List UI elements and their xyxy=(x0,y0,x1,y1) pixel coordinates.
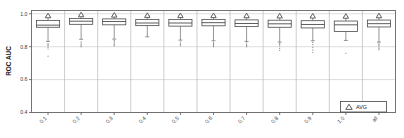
x-tick-label: 1.0 xyxy=(336,115,346,125)
mean-triangle-marker xyxy=(78,12,83,17)
x-tick-label: 0.6 xyxy=(204,115,214,125)
box-group xyxy=(169,13,192,46)
box-group xyxy=(202,13,225,47)
box-series xyxy=(36,12,390,57)
legend-label-avg: AVG xyxy=(356,104,367,110)
box-group xyxy=(367,13,390,50)
box-group xyxy=(235,13,258,47)
y-tick-label: 0.4 xyxy=(20,109,27,115)
box-group xyxy=(103,13,126,47)
outlier-point xyxy=(378,49,379,50)
box-group xyxy=(268,13,291,51)
outlier-point xyxy=(114,45,115,46)
boxplot-chart: 0.40.60.81.0 0.10.20.30.40.50.60.70.80.9… xyxy=(0,0,404,138)
outlier-point xyxy=(81,42,82,43)
outlier-point xyxy=(246,44,247,45)
mean-triangle-marker xyxy=(112,13,117,18)
outlier-point xyxy=(81,41,82,42)
box-group xyxy=(70,12,93,47)
outlier-point xyxy=(312,49,313,50)
outlier-point xyxy=(180,42,181,43)
outlier-point xyxy=(47,45,48,46)
outlier-point xyxy=(312,42,313,43)
outlier-point xyxy=(246,46,247,47)
outlier-point xyxy=(114,42,115,43)
y-tick-label: 0.8 xyxy=(20,44,27,50)
outlier-point xyxy=(378,48,379,49)
box-group xyxy=(136,13,159,37)
y-axis-ticks: 0.40.60.81.0 xyxy=(20,11,31,116)
outlier-point xyxy=(114,40,115,41)
outlier-point xyxy=(213,46,214,47)
x-tick-label: 0.1 xyxy=(38,115,48,125)
outlier-point xyxy=(180,45,181,46)
x-tick-label: 0.5 xyxy=(171,115,181,125)
y-tick-label: 1.0 xyxy=(20,11,27,17)
legend[interactable]: AVG xyxy=(341,102,387,113)
box-group xyxy=(334,14,357,54)
box-rect xyxy=(36,20,59,27)
x-tick-label: all xyxy=(371,115,379,123)
outlier-point xyxy=(180,41,181,42)
outlier-point xyxy=(279,43,280,44)
x-tick-label: 0.8 xyxy=(270,115,280,125)
outlier-point xyxy=(345,53,346,54)
outlier-point xyxy=(213,43,214,44)
outlier-point xyxy=(378,42,379,43)
outlier-point xyxy=(279,48,280,49)
outlier-point xyxy=(279,50,280,51)
outlier-point xyxy=(378,45,379,46)
outlier-point xyxy=(180,44,181,45)
x-tick-label: 0.3 xyxy=(104,115,114,125)
x-axis-ticks: 0.10.20.30.40.50.60.70.80.91.0all xyxy=(38,113,379,125)
x-tick-label: 0.4 xyxy=(137,115,147,125)
box-rect xyxy=(334,21,357,31)
outlier-point xyxy=(47,48,48,49)
outlier-point xyxy=(213,41,214,42)
y-axis-label: ROC AUC xyxy=(5,46,12,76)
outlier-point xyxy=(81,44,82,45)
outlier-point xyxy=(312,47,313,48)
mean-triangle-marker xyxy=(343,14,348,19)
outlier-point xyxy=(279,45,280,46)
outlier-point xyxy=(312,44,313,45)
outlier-point xyxy=(81,46,82,47)
outlier-point xyxy=(246,42,247,43)
outlier-point xyxy=(47,56,48,57)
outlier-point xyxy=(246,45,247,46)
x-tick-label: 0.2 xyxy=(71,115,81,125)
outlier-point xyxy=(378,46,379,47)
y-tick-label: 0.6 xyxy=(20,76,27,82)
mean-triangle-marker xyxy=(310,13,315,18)
outlier-point xyxy=(312,52,313,53)
x-tick-label: 0.7 xyxy=(237,115,247,125)
outlier-point xyxy=(378,44,379,45)
chart-root: 0.40.60.81.0 0.10.20.30.40.50.60.70.80.9… xyxy=(0,0,404,138)
box-group xyxy=(36,13,59,57)
box-rect xyxy=(136,19,159,25)
outlier-point xyxy=(47,47,48,48)
outlier-point xyxy=(279,44,280,45)
outlier-point xyxy=(114,41,115,42)
x-tick-label: 0.9 xyxy=(303,115,313,125)
